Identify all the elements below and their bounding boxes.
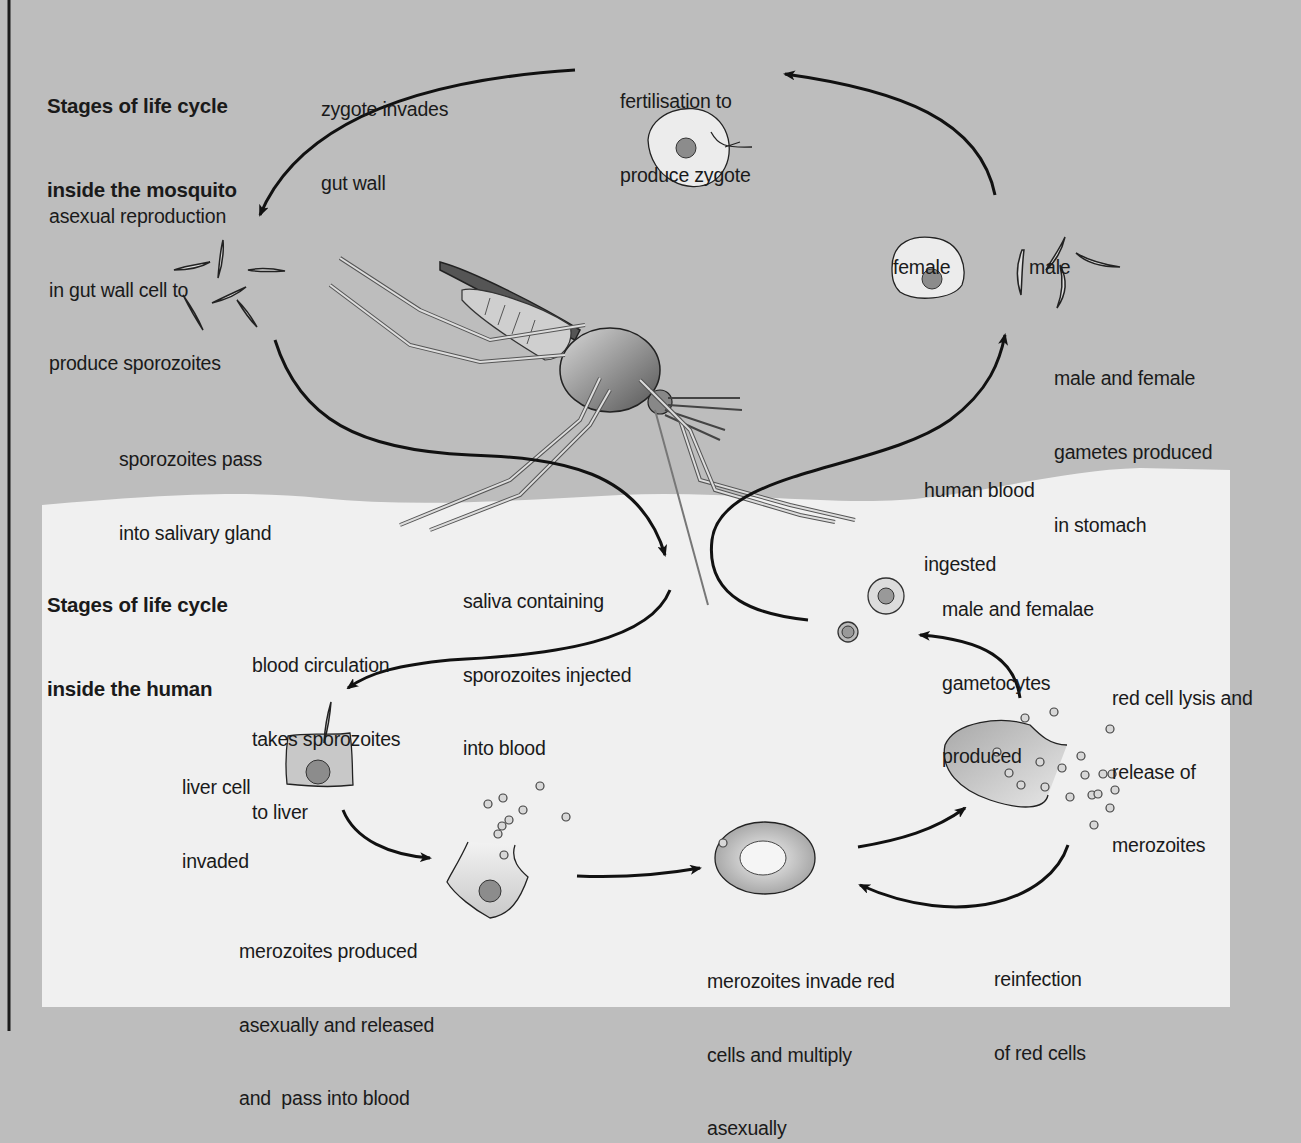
label-sporozoites-pass: sporozoites pass into salivary gland (119, 398, 271, 570)
label-merozoites-produced: merozoites produced asexually and releas… (239, 890, 434, 1135)
label-reinfection: reinfection of red cells (994, 918, 1086, 1090)
label-gametocytes: male and femalae gametocytes produced (942, 548, 1094, 793)
label-zygote-invades: zygote invades gut wall (321, 48, 448, 220)
red-blood-cell (715, 822, 815, 894)
label-male: male (1029, 206, 1070, 304)
label-fertilisation: fertilisation to produce zygote (620, 40, 751, 212)
label-gametes-produced: male and female gametes produced in stom… (1054, 317, 1212, 562)
label-merozoites-invade: merozoites invade red cells and multiply… (707, 920, 895, 1143)
label-female: female (893, 206, 950, 304)
label-liver-invaded: liver cell invaded (182, 726, 250, 898)
label-blood-circulation: blood circulation takes sporozoites to l… (252, 604, 400, 849)
label-red-cell-lysis: red cell lysis and release of merozoites (1112, 637, 1253, 882)
label-saliva-injected: saliva containing sporozoites injected i… (463, 540, 631, 785)
label-asexual-reproduction: asexual reproduction in gut wall cell to… (49, 155, 226, 400)
